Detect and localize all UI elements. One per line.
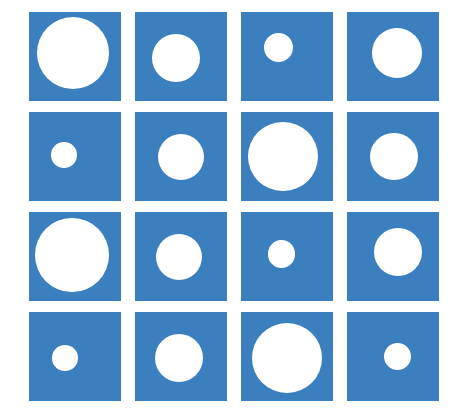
white-circle-r2c3 — [248, 122, 318, 192]
grid-cell-r2c2 — [135, 112, 227, 201]
circle-size-grid — [29, 12, 441, 399]
white-circle-r3c2 — [156, 234, 202, 280]
white-circle-r2c4 — [370, 133, 418, 181]
grid-cell-r4c3 — [241, 312, 333, 401]
grid-cell-r1c2 — [135, 12, 227, 101]
grid-cell-r2c1 — [29, 112, 121, 201]
grid-cell-r2c4 — [347, 112, 439, 201]
grid-cell-r2c3 — [241, 112, 333, 201]
white-circle-r4c3 — [252, 323, 322, 393]
grid-cell-r3c4 — [347, 212, 439, 301]
grid-cell-r3c1 — [29, 212, 121, 301]
figure-root: Grid of blue squares containing white ci… — [0, 0, 465, 414]
grid-cell-r4c2 — [135, 312, 227, 401]
grid-cell-r4c4 — [347, 312, 439, 401]
white-circle-r3c1 — [35, 218, 109, 292]
grid-cell-r4c1 — [29, 312, 121, 401]
white-circle-r1c4 — [372, 28, 422, 78]
white-circle-r1c1 — [37, 17, 109, 89]
white-circle-r4c2 — [155, 334, 203, 382]
white-circle-r2c1 — [51, 142, 77, 168]
grid-cell-r1c3 — [241, 12, 333, 101]
white-circle-r4c1 — [52, 345, 78, 371]
white-circle-r3c4 — [374, 228, 422, 276]
white-circle-r3c3 — [268, 240, 296, 268]
grid-cell-r3c2 — [135, 212, 227, 301]
grid-cell-r1c4 — [347, 12, 439, 101]
grid-cell-r1c1 — [29, 12, 121, 101]
grid-cell-r3c3 — [241, 212, 333, 301]
white-circle-r2c2 — [158, 134, 204, 180]
